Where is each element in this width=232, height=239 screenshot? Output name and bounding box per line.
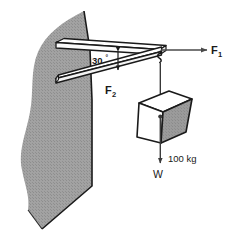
suspended-block xyxy=(137,91,192,143)
force-2-subscript: 2 xyxy=(112,90,116,99)
force-2-label: F xyxy=(105,84,112,96)
force-diagram-canvas: 30 ° F 1 F 2 100 kg W xyxy=(0,0,232,239)
force-diagram-figure: 30 ° F 1 F 2 100 kg W xyxy=(0,0,232,239)
weight-label: W xyxy=(153,168,163,180)
force-1-subscript: 1 xyxy=(218,50,222,59)
angle-label: 30 xyxy=(92,55,103,66)
angle-degree-symbol: ° xyxy=(106,54,109,61)
force-1-label: F xyxy=(211,44,218,56)
mass-label: 100 kg xyxy=(168,153,197,164)
